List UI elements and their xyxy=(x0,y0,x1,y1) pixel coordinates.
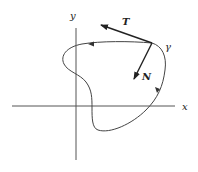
y-axis-label: y xyxy=(69,10,76,21)
curve-frame-diagram: y x γ T N xyxy=(0,0,198,172)
normal-label: N xyxy=(141,71,152,82)
tangent-vector xyxy=(101,25,152,43)
gamma-curve xyxy=(63,42,166,131)
curve-label-gamma: γ xyxy=(165,41,171,52)
x-axis-label: x xyxy=(182,101,188,112)
curve-direction-arrow-top xyxy=(88,42,94,47)
tangent-label: T xyxy=(122,16,131,27)
